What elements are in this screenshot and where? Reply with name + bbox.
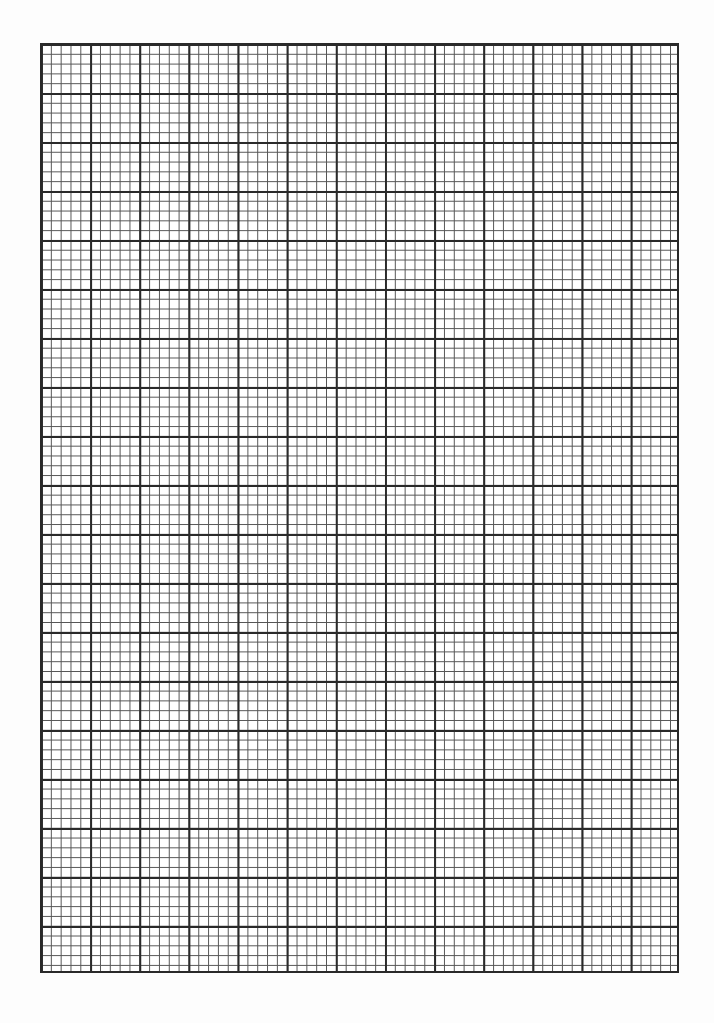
graph-paper-grid bbox=[40, 43, 679, 973]
